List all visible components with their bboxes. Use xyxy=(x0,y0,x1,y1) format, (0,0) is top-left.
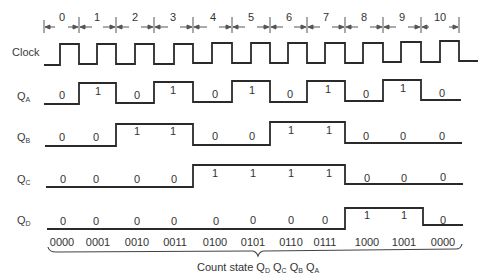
qd-bit: 0 xyxy=(322,214,328,226)
count-state: 0111 xyxy=(314,236,337,248)
period-label: 0 xyxy=(59,11,65,23)
qb-bit: 0 xyxy=(363,130,369,142)
count-state: 0110 xyxy=(279,236,303,248)
qa-bit: 0 xyxy=(59,89,65,101)
qd-bit: 0 xyxy=(171,215,177,227)
period-label: 9 xyxy=(399,11,405,23)
count-state: 0010 xyxy=(125,236,149,248)
qd-bit: 1 xyxy=(401,209,407,221)
qa-bit: 0 xyxy=(363,88,369,100)
qa-bit: 1 xyxy=(170,84,176,96)
count-state: 0011 xyxy=(163,236,187,248)
period-arrows xyxy=(45,25,458,29)
period-label: 4 xyxy=(210,11,216,23)
count-state: 1000 xyxy=(355,236,379,248)
qb-bit: 0 xyxy=(212,130,218,142)
qc-bit: 0 xyxy=(401,172,407,184)
qd-bit: 0 xyxy=(134,215,140,227)
qb-bit: 0 xyxy=(93,131,99,143)
qd-bit: 0 xyxy=(440,214,446,226)
count-state: 0101 xyxy=(241,236,265,248)
qc-label: QC xyxy=(17,173,31,186)
qd-label: QD xyxy=(17,214,31,227)
qd-bit: 0 xyxy=(250,214,256,226)
qb-bit: 0 xyxy=(249,130,255,142)
qb-bit: 1 xyxy=(288,124,294,136)
qb-bit: 1 xyxy=(134,125,140,137)
qd-bit: 0 xyxy=(60,215,66,227)
qa-bit: 0 xyxy=(287,88,293,100)
period-label: 1 xyxy=(94,11,100,23)
qa-bit: 0 xyxy=(134,89,140,101)
qa-bit: 1 xyxy=(95,85,101,97)
period-label: 10 xyxy=(434,11,446,23)
qc-bit: 0 xyxy=(364,172,370,184)
qc-bit: 1 xyxy=(250,167,256,179)
qc-bit: 0 xyxy=(134,173,140,185)
count-state: 0000 xyxy=(50,236,74,248)
qb-bit: 1 xyxy=(170,125,176,137)
qa-label: QA xyxy=(17,90,30,103)
count-state-caption: Count state QD QC QB QA xyxy=(197,261,319,274)
qd-bit: 0 xyxy=(288,214,294,226)
count-state: 0000 xyxy=(431,236,455,248)
period-label: 7 xyxy=(323,11,329,23)
qc-bit: 1 xyxy=(326,167,332,179)
qa-bit: 0 xyxy=(439,87,445,99)
count-state: 0001 xyxy=(86,236,110,248)
clock-label: Clock xyxy=(12,46,40,58)
qc-bit: 0 xyxy=(171,173,177,185)
period-label: 8 xyxy=(361,11,367,23)
qc-bit: 0 xyxy=(440,171,446,183)
qb-bit: 1 xyxy=(326,124,332,136)
qd-bit: 1 xyxy=(364,209,370,221)
qb-bit: 0 xyxy=(439,130,445,142)
qa-bit: 0 xyxy=(212,88,218,100)
period-label: 2 xyxy=(132,11,138,23)
qd-bit: 0 xyxy=(213,215,219,227)
period-label: 6 xyxy=(286,11,292,23)
qc-bit: 1 xyxy=(288,167,294,179)
qa-bit: 1 xyxy=(325,83,331,95)
qb-bit: 0 xyxy=(400,130,406,142)
qc-bit: 0 xyxy=(60,173,66,185)
clock-waveform xyxy=(44,41,478,65)
qd-bit: 0 xyxy=(93,215,99,227)
count-state: 0100 xyxy=(203,236,227,248)
period-label: 3 xyxy=(170,11,176,23)
qc-bit: 0 xyxy=(93,173,99,185)
qc-bit: 1 xyxy=(212,167,218,179)
count-state: 1001 xyxy=(392,236,416,248)
period-label: 5 xyxy=(248,11,254,23)
qb-label: QB xyxy=(17,131,30,144)
qa-bit: 1 xyxy=(400,82,406,94)
qb-bit: 0 xyxy=(59,131,65,143)
qa-bit: 1 xyxy=(249,84,255,96)
